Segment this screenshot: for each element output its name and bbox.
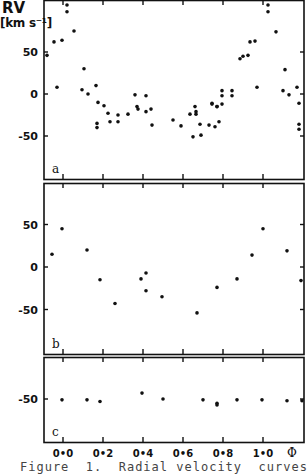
y-tick-label: 50 <box>23 46 39 59</box>
data-point <box>139 277 143 281</box>
data-point <box>285 249 289 253</box>
data-point <box>60 38 64 42</box>
data-point <box>150 123 154 127</box>
data-point <box>266 3 270 7</box>
data-point <box>230 89 234 93</box>
data-point <box>188 112 192 116</box>
data-point <box>116 113 120 117</box>
panel-label: a <box>52 162 59 176</box>
data-point <box>82 67 86 71</box>
data-point <box>65 10 69 14</box>
x-tick-label: 0•6 <box>173 448 193 459</box>
data-point <box>274 30 278 34</box>
data-point <box>60 398 64 402</box>
data-point <box>283 68 287 72</box>
data-point <box>96 101 100 105</box>
data-point <box>230 94 234 98</box>
panel-label: b <box>52 337 60 351</box>
y-tick-label: 0 <box>30 88 38 101</box>
data-point <box>255 85 259 89</box>
y-tick-label: 0 <box>30 261 38 274</box>
data-point <box>85 398 89 402</box>
data-point <box>198 122 202 126</box>
x-tick-label: 0•4 <box>133 448 153 459</box>
data-point <box>85 248 89 252</box>
data-point <box>193 105 197 109</box>
data-point <box>116 120 120 124</box>
data-point <box>215 286 219 290</box>
data-point <box>95 126 99 130</box>
data-point <box>161 397 165 401</box>
data-point <box>55 85 59 89</box>
figure-caption: Figure 1. Radial velocity curves <box>20 460 308 474</box>
x-tick-label: 0•0 <box>53 448 73 459</box>
data-point <box>210 102 214 106</box>
data-point <box>281 89 285 93</box>
data-point <box>235 277 239 281</box>
y-tick-label: -50 <box>18 393 38 406</box>
data-point <box>287 93 291 97</box>
data-point <box>50 252 54 256</box>
data-point <box>149 107 153 111</box>
data-point <box>60 227 64 231</box>
data-point <box>215 401 219 405</box>
data-point <box>199 133 203 137</box>
data-point <box>144 289 148 293</box>
data-point <box>266 10 270 14</box>
data-point <box>220 102 224 106</box>
data-point <box>241 54 245 58</box>
data-point <box>133 93 137 97</box>
data-point <box>246 54 250 58</box>
x-axis-phase-symbol: Φ <box>287 446 297 460</box>
x-tick-label: 1•0 <box>253 448 273 459</box>
data-point <box>144 271 148 275</box>
data-point <box>250 253 254 257</box>
data-point <box>102 104 106 108</box>
data-point <box>300 399 304 403</box>
data-point <box>191 135 195 139</box>
panel-b-frame <box>44 184 304 355</box>
data-point <box>106 112 110 116</box>
data-point <box>220 94 224 98</box>
data-point <box>213 125 217 129</box>
data-point <box>160 295 164 299</box>
data-point <box>45 54 49 58</box>
data-point <box>98 400 102 404</box>
x-tick-label: 0•2 <box>93 448 113 459</box>
data-point <box>217 120 221 124</box>
data-point <box>140 391 144 395</box>
y-tick-label: -50 <box>18 304 38 317</box>
data-point <box>207 123 211 127</box>
data-point <box>238 57 242 61</box>
data-point <box>52 40 56 44</box>
data-point <box>235 398 239 402</box>
y-tick-label: -50 <box>18 130 38 143</box>
data-point <box>195 311 199 315</box>
x-tick-label: 0•8 <box>213 448 233 459</box>
data-point <box>94 84 98 88</box>
data-point <box>220 89 224 93</box>
data-point <box>65 3 69 7</box>
data-point <box>297 127 301 131</box>
data-point <box>297 101 301 105</box>
data-point <box>108 120 112 124</box>
data-point <box>261 227 265 231</box>
data-point <box>253 39 257 43</box>
y-tick-label: 50 <box>23 219 39 232</box>
panel-label: c <box>52 425 59 439</box>
data-point <box>72 29 76 33</box>
data-point <box>299 279 303 283</box>
data-point <box>95 122 99 126</box>
data-point <box>215 105 219 109</box>
data-point <box>194 112 198 116</box>
data-point <box>285 399 289 403</box>
data-point <box>144 94 148 98</box>
data-point <box>295 85 299 89</box>
data-point <box>179 124 183 128</box>
data-point <box>80 88 84 92</box>
data-point <box>171 118 175 122</box>
data-point <box>98 278 102 282</box>
panel-c-frame <box>44 358 304 443</box>
